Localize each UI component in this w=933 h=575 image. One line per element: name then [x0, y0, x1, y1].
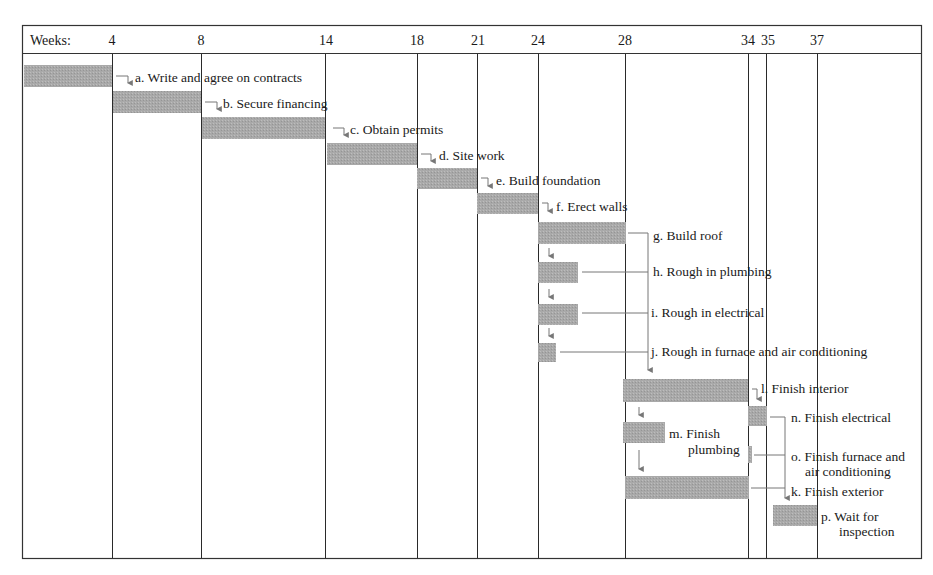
tick-14: 14	[319, 33, 333, 48]
label-f: f. Erect walls	[556, 199, 628, 214]
tick-8: 8	[198, 33, 205, 48]
week-header: Weeks: 4 8 14 18 21 24 28 34 35 37	[30, 33, 824, 48]
label-m-line1: m. Finish	[669, 426, 720, 441]
label-g: g. Build roof	[653, 228, 723, 243]
label-m-line2: plumbing	[688, 442, 740, 457]
bar-p	[773, 505, 817, 526]
bar-c	[202, 117, 325, 139]
label-b: b. Secure financing	[223, 96, 328, 111]
bar-i	[538, 304, 578, 325]
bar-k	[625, 476, 749, 499]
bar-f	[477, 193, 538, 214]
label-n: n. Finish electrical	[791, 410, 891, 425]
bar-d	[327, 143, 417, 165]
label-i: i. Rough in electrical	[651, 305, 764, 320]
label-k: k. Finish exterior	[791, 484, 884, 499]
bar-a	[24, 65, 112, 87]
tick-4: 4	[109, 33, 116, 48]
bar-m	[623, 422, 665, 443]
label-e: e. Build foundation	[496, 173, 601, 188]
bar-n	[748, 406, 767, 426]
bar-o	[748, 446, 752, 463]
tick-21: 21	[471, 33, 485, 48]
bar-h	[538, 262, 578, 283]
tick-24: 24	[531, 33, 545, 48]
label-l: l. Finish interior	[761, 381, 849, 396]
label-d: d. Site work	[439, 148, 505, 163]
tick-34: 34	[741, 33, 755, 48]
tick-37: 37	[810, 33, 824, 48]
task-labels: a. Write and agree on contracts b. Secur…	[135, 70, 905, 539]
weeks-label: Weeks:	[30, 33, 71, 48]
gantt-chart: Weeks: 4 8 14 18 21 24 28 34 35 37	[0, 0, 933, 575]
label-p-line2: inspection	[839, 524, 895, 539]
tick-18: 18	[410, 33, 424, 48]
label-a: a. Write and agree on contracts	[135, 70, 302, 85]
bar-l	[623, 379, 748, 402]
bar-e	[417, 168, 477, 189]
label-c: c. Obtain permits	[350, 122, 443, 137]
label-h: h. Rough in plumbing	[653, 264, 772, 279]
tick-28: 28	[618, 33, 632, 48]
bar-j	[538, 343, 556, 362]
tick-35: 35	[761, 33, 775, 48]
label-o-line2: air conditioning	[805, 464, 891, 479]
label-p-line1: p. Wait for	[821, 509, 879, 524]
label-j: j. Rough in furnace and air conditioning	[650, 344, 868, 359]
label-o-line1: o. Finish furnace and	[791, 449, 905, 464]
bar-b	[113, 91, 201, 113]
bar-g	[538, 222, 626, 244]
